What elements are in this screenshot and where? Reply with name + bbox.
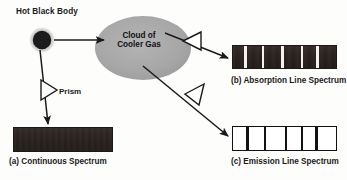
spectral-line <box>316 46 319 68</box>
spectrum-emission <box>232 126 337 151</box>
label-cloud-of-cooler-gas: Cloud of Cooler Gas <box>104 31 174 50</box>
spectral-line <box>281 46 284 68</box>
spectral-line <box>315 127 317 150</box>
spectral-line <box>301 46 304 68</box>
prism-triangle-icon-emission <box>185 84 204 105</box>
label-prism: Prism <box>59 87 81 96</box>
label-cloud-line2: Cooler Gas <box>117 40 161 49</box>
spectrum-continuous <box>13 127 113 152</box>
label-cloud-line1: Cloud of <box>122 31 155 40</box>
arrow-cloud-to-emission <box>143 66 228 136</box>
caption-emission-spectrum: (c) Emission Line Spectrum <box>231 157 339 166</box>
caption-continuous-spectrum: (a) Continuous Spectrum <box>9 157 107 166</box>
label-hot-black-body: Hot Black Body <box>16 7 78 16</box>
prism-triangle-icon-continuous <box>41 80 57 100</box>
spectral-line <box>264 127 266 150</box>
spectral-line <box>262 46 265 68</box>
spectrum-absorption <box>232 45 337 69</box>
blackbody-core-icon <box>33 31 51 49</box>
spectral-line <box>246 127 248 150</box>
spectral-line <box>285 127 287 150</box>
caption-absorption-spectrum: (b) Absorption Line Spectrum <box>231 76 346 85</box>
diagram-vector-layer <box>0 0 347 180</box>
spectral-line <box>244 46 247 68</box>
spectral-line <box>301 127 303 150</box>
spectroscopy-diagram: Hot Black Body Prism Cloud of Cooler Gas… <box>0 0 347 180</box>
